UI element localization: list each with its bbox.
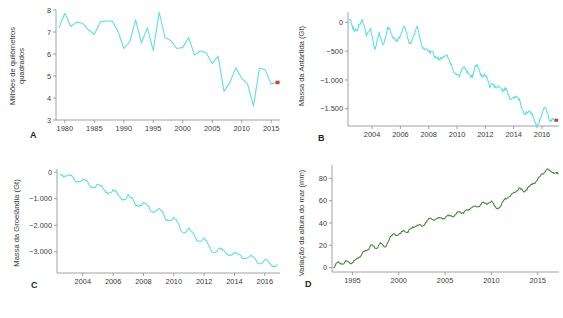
y-tick-label: 20 xyxy=(319,241,327,250)
panel-a-series-line xyxy=(59,12,277,106)
x-tick-label: 2015 xyxy=(263,124,279,133)
y-tick-label: 0 xyxy=(48,168,52,177)
panel-b-axes xyxy=(348,12,559,126)
panel-d-y-ticks: 020406080 xyxy=(319,174,332,272)
panel-b-plot: 0−500−1.000−1.500 2004200620082010201220… xyxy=(285,0,563,155)
x-tick-label: 2012 xyxy=(196,277,212,286)
y-tick-label: 3 xyxy=(47,116,51,125)
x-tick-label: 1980 xyxy=(57,124,73,133)
x-tick-label: 2010 xyxy=(449,130,465,139)
x-tick-label: 1990 xyxy=(116,124,132,133)
x-tick-label: 2004 xyxy=(75,277,91,286)
x-tick-label: 2010 xyxy=(483,276,499,285)
panel-b-end-marker xyxy=(555,119,559,122)
x-tick-label: 2015 xyxy=(529,276,545,285)
x-tick-label: 2010 xyxy=(233,124,249,133)
x-tick-label: 1995 xyxy=(145,124,161,133)
x-tick-label: 2000 xyxy=(175,124,191,133)
x-tick-label: 2005 xyxy=(437,276,453,285)
y-tick-label: 7 xyxy=(47,28,51,37)
x-tick-label: 2014 xyxy=(505,130,521,139)
panel-c-x-ticks: 2004200620082010201220142016 xyxy=(75,273,273,286)
panel-b-y-ticks: 0−500−1.000−1.500 xyxy=(320,18,348,113)
y-tick-label: −500 xyxy=(326,47,343,56)
y-tick-label: 40 xyxy=(319,219,327,228)
panel-b-antarctica-mass: Massa da Antártida (Gt) 0−500−1.000−1.50… xyxy=(285,0,563,155)
y-tick-label: −1.000 xyxy=(29,194,52,203)
x-tick-label: 2005 xyxy=(204,124,220,133)
x-tick-label: 2010 xyxy=(166,277,182,286)
x-tick-label: 2014 xyxy=(226,277,242,286)
panel-a-x-ticks: 19801985199019952000200520102015 xyxy=(57,120,280,133)
panel-d-plot: 020406080 19952000200520102015 xyxy=(285,155,563,318)
x-tick-label: 1985 xyxy=(86,124,102,133)
y-tick-label: 80 xyxy=(319,174,327,183)
panel-b-x-ticks: 2004200620082010201220142016 xyxy=(364,126,550,139)
y-tick-label: 6 xyxy=(47,50,51,59)
panel-b-letter: B xyxy=(318,133,325,143)
y-tick-label: −1.500 xyxy=(320,104,343,113)
x-tick-label: 2006 xyxy=(105,277,121,286)
panel-c-y-ticks: 0−1.000−2.000−3.000 xyxy=(29,168,57,257)
y-tick-label: 0 xyxy=(323,263,327,272)
x-tick-label: 2016 xyxy=(534,130,550,139)
y-tick-label: 5 xyxy=(47,72,51,81)
x-tick-label: 2008 xyxy=(420,130,436,139)
panel-c-series-line xyxy=(60,174,277,267)
panel-b-series-line xyxy=(349,19,556,127)
y-tick-label: −3.000 xyxy=(29,247,52,256)
y-tick-label: −2.000 xyxy=(29,221,52,230)
panel-a-y-ticks: 345678 xyxy=(47,6,56,125)
panel-d-series-line xyxy=(334,169,558,268)
panel-a-end-marker xyxy=(276,81,280,85)
panel-c-plot: 0−1.000−2.000−3.000 20042006200820102012… xyxy=(0,155,285,318)
x-tick-label: 2004 xyxy=(364,130,380,139)
panel-a-plot: 345678 19801985199019952000200520102015 xyxy=(0,0,285,155)
climate-indicators-figure: Milhões de quilómetros quadrados 345678 … xyxy=(0,0,563,318)
x-tick-label: 2012 xyxy=(477,130,493,139)
panel-a-sea-ice-extent: Milhões de quilómetros quadrados 345678 … xyxy=(0,0,285,155)
y-tick-label: 8 xyxy=(47,6,51,15)
x-tick-label: 2006 xyxy=(392,130,408,139)
y-tick-label: 4 xyxy=(47,94,51,103)
panel-d-sea-level: Variação da altura do mar (mm) 020406080… xyxy=(285,155,563,318)
panel-d-letter: D xyxy=(305,279,312,289)
panel-c-greenland-mass: Massa da Groelândia (Gt) 0−1.000−2.000−3… xyxy=(0,155,285,318)
x-tick-label: 2016 xyxy=(257,277,273,286)
x-tick-label: 1995 xyxy=(344,276,360,285)
y-tick-label: 60 xyxy=(319,196,327,205)
x-tick-label: 2008 xyxy=(135,277,151,286)
x-tick-label: 2000 xyxy=(390,276,406,285)
y-tick-label: 0 xyxy=(339,18,343,27)
y-tick-label: −1.000 xyxy=(320,76,343,85)
panel-c-letter: C xyxy=(31,280,38,290)
panel-d-x-ticks: 19952000200520102015 xyxy=(344,272,546,285)
panel-a-axes xyxy=(56,10,280,120)
panel-a-letter: A xyxy=(30,130,37,140)
